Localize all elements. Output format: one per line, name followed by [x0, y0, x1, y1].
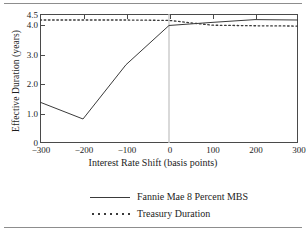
x-tick-label: −100: [118, 145, 137, 155]
figure: Effective Duration (years) 01.02.03.04.0…: [0, 0, 306, 232]
y-tick-label: 4.5: [27, 10, 38, 20]
legend-label: Fannie Mae 8 Percent MBS: [137, 191, 248, 202]
x-tick-label: 0: [168, 145, 173, 155]
legend-item-treasury: Treasury Duration: [90, 205, 306, 222]
y-tick-label: 3.0: [27, 50, 38, 60]
x-tick-label: −300: [32, 145, 51, 155]
x-tick-label: 300: [292, 145, 306, 155]
x-tick-label: 100: [206, 145, 220, 155]
page-rule-bottom: [4, 227, 302, 228]
page-rule-top: [4, 3, 302, 4]
solid-line-key-icon: [90, 192, 130, 202]
legend-label: Treasury Duration: [137, 208, 210, 219]
y-tick-label: 1.0: [27, 109, 38, 119]
legend-item-fannie-mae: Fannie Mae 8 Percent MBS: [90, 188, 306, 205]
legend: Fannie Mae 8 Percent MBS Treasury Durati…: [90, 188, 306, 222]
y-tick-label: 4.0: [27, 20, 38, 30]
dotted-line-key-icon: [90, 209, 130, 219]
x-axis-title: Interest Rate Shift (basis points): [0, 157, 306, 168]
x-tick-label: −200: [75, 145, 94, 155]
y-axis-title: Effective Duration (years): [7, 21, 25, 141]
x-tick-label: 200: [249, 145, 263, 155]
y-tick-label: 2.0: [27, 79, 38, 89]
chart-canvas: [40, 14, 298, 143]
